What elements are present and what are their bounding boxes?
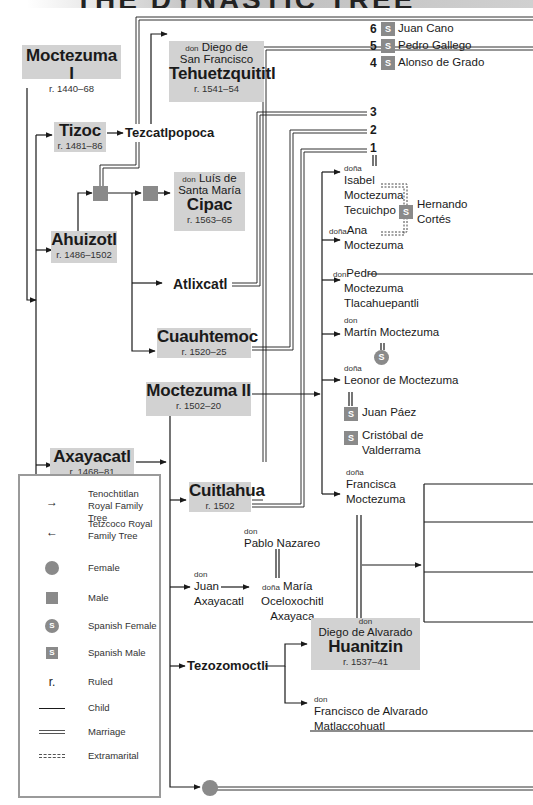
person-prefix: don (311, 618, 420, 626)
person-pedro-moctezuma: donPedro Moctezuma Tlacahuepantli (333, 266, 419, 311)
male-square-icon (46, 592, 58, 604)
spanish-female-icon: S (45, 619, 59, 633)
person-name: Cipac (174, 196, 245, 214)
person-name: Hernando (417, 197, 468, 212)
male-square-icon (93, 186, 108, 201)
person-moctezuma-ii: Moctezuma II r. 1502–20 (146, 382, 251, 416)
legend-label: Tetzcoco Royal (88, 518, 152, 529)
person-reign: r. 1537–41 (311, 657, 420, 667)
person-prefix: don (244, 528, 320, 536)
legend-item-tenochtitlan: → TenochtitlanRoyal Family Tree (20, 488, 159, 516)
person-prefix: don (185, 44, 198, 53)
person-name: Pedro (346, 267, 377, 279)
person-isabel-moctezuma: doña Isabel Moctezuma Tecuichpo (344, 165, 403, 218)
ruled-symbol: r. (34, 668, 70, 696)
person-pablo-nazareo: don Pablo Nazareo (244, 528, 320, 551)
person-name: Pablo Nazareo (244, 537, 320, 549)
person-prefix: doña (262, 583, 280, 592)
legend-item-female: Female (20, 554, 159, 582)
person-ana-moctezuma: doñaAna Moctezuma (329, 223, 403, 253)
person-prefix: doña (344, 165, 403, 173)
person-name-3: Tlacahuepantli (344, 297, 419, 309)
person-reign: r. 1541–54 (169, 84, 264, 94)
male-square-icon (143, 186, 158, 201)
person-name: Martín Moctezuma (344, 326, 439, 338)
person-reign: r. 1440–68 (22, 84, 121, 94)
legend-label: Marriage (88, 726, 126, 738)
person-name: Cristóbal de (362, 428, 423, 443)
person-name: Juan (194, 579, 244, 594)
person-name-3: Axayaca (270, 610, 314, 622)
husband-number: 3 (370, 105, 377, 119)
legend-label: Child (88, 702, 110, 714)
person-name-2: Moctezuma (344, 239, 403, 251)
person-name: Tehuetzquititl (169, 65, 264, 83)
husband-number: 5 (370, 39, 377, 53)
person-prefix: doña (346, 469, 405, 477)
spanish-male-icon: S (344, 431, 358, 445)
person-cuitlahua: Cuitlahua r. 1502 (189, 482, 251, 512)
female-circle-icon (202, 780, 218, 796)
person-name: Huanitzin (311, 638, 420, 656)
person-name-2: Valderrama (362, 443, 423, 458)
person-name: Francisca (346, 477, 405, 492)
person-name-2: Matlaccohuatl (314, 719, 428, 734)
person-given-name: Diego de (202, 41, 248, 53)
person-name: Leonor de Moctezuma (344, 374, 458, 386)
person-reign: r. 1520–25 (157, 347, 251, 357)
legend-label: Tenochtitlan (88, 488, 139, 499)
legend-item-spanish-male: S Spanish Male (20, 639, 159, 667)
person-francisco-matlaccohuatl: don Francisco de Alvarado Matlaccohuatl (314, 696, 428, 734)
person-tehuetzquititl: don Diego de San Francisco Tehuetzquitit… (169, 41, 264, 102)
person-reign: r. 1486–1502 (51, 250, 117, 260)
person-reign: r. 1502–20 (146, 401, 251, 411)
person-name: Cuitlahua (189, 482, 251, 500)
arrow-left-icon: ← (34, 518, 70, 546)
husband-number: 1 (370, 141, 377, 155)
legend-label: Extramarital (88, 750, 139, 762)
child-line-icon (39, 708, 65, 709)
person-name: Ahuizotl (51, 231, 117, 249)
person-huanitzin: don Diego de Alvarado Huanitzin r. 1537–… (311, 618, 420, 670)
legend-label: Spanish Male (88, 647, 146, 659)
person-prefix: doña (344, 365, 458, 373)
person-name-2: Moctezuma (344, 188, 403, 203)
arrow-right-icon: → (34, 488, 70, 516)
person-name: Tizoc (54, 122, 106, 140)
person-name-2: Axayacatl (194, 594, 244, 609)
spanish-male-icon: S (381, 22, 395, 36)
person-atlixcatl: Atlixcatl (173, 276, 227, 292)
legend-item-male: Male (20, 584, 159, 612)
person-prefix: doña (329, 227, 347, 236)
spanish-male-icon: S (344, 407, 358, 421)
person-name: Moctezuma II (146, 382, 251, 400)
husband-juan-cano: Juan Cano (398, 21, 454, 36)
person-name: Axayacatl (50, 448, 134, 466)
person-name: María (283, 580, 312, 592)
person-juan-axayacatl: don Juan Axayacatl (194, 571, 244, 609)
person-hernando-cortes: Hernando Cortés (417, 197, 468, 227)
person-reign: r. 1481–86 (54, 141, 106, 151)
person-tizoc: Tizoc r. 1481–86 (54, 122, 106, 152)
spanish-male-icon: S (399, 205, 413, 219)
person-ahuizotl: Ahuizotl r. 1486–1502 (51, 231, 117, 263)
person-name: Cuauhtemoc (157, 328, 251, 346)
person-prefix: don (314, 696, 428, 704)
person-name: Moctezuma I (22, 47, 121, 83)
person-francisca-moctezuma: doña Francisca Moctezuma (346, 469, 405, 507)
person-prefix: don (344, 317, 439, 325)
legend-item-spanish-female: S Spanish Female (20, 612, 159, 640)
husband-number: 2 (370, 123, 377, 137)
spanish-male-icon: S (46, 647, 58, 659)
spanish-female-icon: S (374, 350, 389, 365)
legend-label-2: Family Tree (88, 530, 138, 541)
person-name: Francisco de Alvarado (314, 704, 428, 719)
person-name-2: Oceloxochitl (261, 595, 324, 607)
female-circle-icon (45, 561, 59, 575)
person-martin-moctezuma: don Martín Moctezuma (344, 317, 439, 340)
person-name-2: Cortés (417, 212, 468, 227)
legend-label: Female (88, 562, 120, 574)
person-prefix: don (333, 270, 346, 279)
person-name-3: Tecuichpo (344, 203, 403, 218)
person-name-2: Moctezuma (346, 492, 405, 507)
